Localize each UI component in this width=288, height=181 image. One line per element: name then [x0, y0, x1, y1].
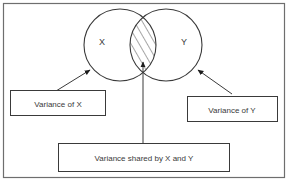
circle-y-label: Y: [181, 37, 187, 47]
diagram-canvas: X Y Variance of X Variance of Y Variance…: [0, 0, 288, 181]
box-variance-of-y-label: Variance of Y: [208, 106, 256, 115]
right-connector: [198, 70, 232, 94]
box-variance-of-x-label: Variance of X: [34, 100, 82, 109]
venn-diagram: X Y Variance of X Variance of Y Variance…: [0, 0, 288, 181]
box-shared-variance-label: Variance shared by X and Y: [95, 154, 195, 163]
circle-x-label: X: [99, 37, 105, 47]
left-connector: [56, 70, 90, 91]
